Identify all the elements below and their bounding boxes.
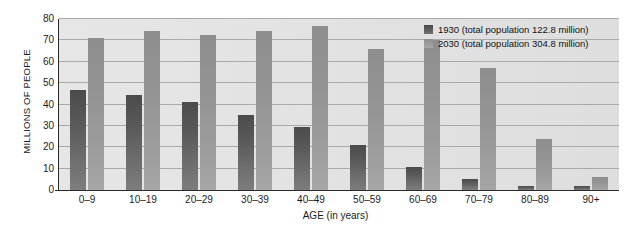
bar-1930-10–19 xyxy=(126,95,142,190)
x-axis-tick-labels: 0–910–1920–2930–3940–4950–5960–6970–7980… xyxy=(59,194,619,208)
bar-2030-10–19 xyxy=(144,31,160,190)
bar-1930-30–39 xyxy=(238,115,254,190)
y-tick-label: 20 xyxy=(28,142,54,152)
bar-2030-90+ xyxy=(592,177,608,190)
x-tick-label: 60–69 xyxy=(395,194,451,205)
bar-group xyxy=(238,19,272,190)
legend-label-1930: 1930 (total population 122.8 million) xyxy=(438,24,589,35)
bar-1930-40–49 xyxy=(294,127,310,190)
x-tick-label: 0–9 xyxy=(59,194,115,205)
bar-group xyxy=(182,19,216,190)
bar-group xyxy=(350,19,384,190)
bar-2030-70–79 xyxy=(480,68,496,190)
y-tick-label: 60 xyxy=(28,57,54,67)
x-axis-line xyxy=(55,190,619,191)
bar-2030-20–29 xyxy=(200,35,216,190)
bar-group xyxy=(70,19,104,190)
y-tick-label: 10 xyxy=(28,164,54,174)
legend-swatch-2030 xyxy=(424,39,433,48)
population-age-bar-chart: MILLIONS OF PEOPLE 01020304050607080 0–9… xyxy=(0,0,626,234)
x-tick-label: 10–19 xyxy=(115,194,171,205)
x-axis-title: AGE (in years) xyxy=(0,210,626,221)
x-tick-label: 50–59 xyxy=(339,194,395,205)
x-tick-label: 70–79 xyxy=(451,194,507,205)
x-tick-label: 80–89 xyxy=(507,194,563,205)
x-tick-label: 40–49 xyxy=(283,194,339,205)
y-tick-label: 40 xyxy=(28,100,54,110)
bar-1930-20–29 xyxy=(182,102,198,190)
x-tick-label: 90+ xyxy=(563,194,619,205)
y-tick-label: 30 xyxy=(28,121,54,131)
y-axis-tick-labels: 01020304050607080 xyxy=(28,19,54,190)
bar-1930-60–69 xyxy=(406,167,422,191)
y-tick-label: 0 xyxy=(28,185,54,195)
x-tick-label: 30–39 xyxy=(227,194,283,205)
bar-group xyxy=(294,19,328,190)
bar-2030-30–39 xyxy=(256,31,272,190)
y-axis-line xyxy=(58,19,59,191)
y-tick-label: 80 xyxy=(28,14,54,24)
legend-item-1930: 1930 (total population 122.8 million) xyxy=(424,23,616,36)
y-tick-label: 70 xyxy=(28,35,54,45)
legend-swatch-1930 xyxy=(424,25,433,34)
y-tick-label: 50 xyxy=(28,78,54,88)
bar-2030-50–59 xyxy=(368,49,384,190)
legend-item-2030: 2030 (total population 304.8 million) xyxy=(424,37,616,50)
bar-1930-0–9 xyxy=(70,90,86,190)
bar-1930-50–59 xyxy=(350,145,366,190)
chart-legend: 1930 (total population 122.8 million) 20… xyxy=(424,23,616,51)
bar-1930-70–79 xyxy=(462,179,478,190)
bar-2030-80–89 xyxy=(536,139,552,190)
bar-2030-40–49 xyxy=(312,26,328,190)
bar-group xyxy=(126,19,160,190)
bar-2030-60–69 xyxy=(424,40,440,190)
x-tick-label: 20–29 xyxy=(171,194,227,205)
legend-label-2030: 2030 (total population 304.8 million) xyxy=(438,38,589,49)
bar-2030-0–9 xyxy=(88,38,104,190)
